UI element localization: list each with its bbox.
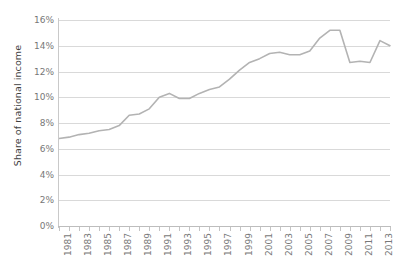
- x-axis-tick: [230, 227, 231, 231]
- x-axis-tick-label: 1989: [143, 233, 153, 256]
- x-axis-tick: [300, 227, 301, 231]
- x-axis-tick: [290, 227, 291, 231]
- y-axis-tick-labels: 0%2%4%6%8%10%12%14%16%: [24, 0, 54, 274]
- x-axis-tick: [89, 227, 90, 231]
- x-axis-tick-label: 1987: [123, 233, 133, 256]
- y-axis-tick-label: 4%: [40, 170, 54, 180]
- x-axis-tick: [189, 227, 190, 231]
- x-axis-tick: [199, 227, 200, 231]
- y-axis-tick-label: 8%: [40, 118, 54, 128]
- y-axis-title: Share of national income: [12, 6, 23, 206]
- y-axis-tick-label: 2%: [40, 195, 54, 205]
- x-axis-tick: [149, 227, 150, 231]
- x-axis-tick: [109, 227, 110, 231]
- x-axis-tick: [320, 227, 321, 231]
- series-line: [59, 20, 390, 226]
- x-axis-line: [58, 226, 391, 227]
- x-axis-tick-label: 2007: [324, 233, 334, 256]
- x-axis-tick: [340, 227, 341, 231]
- x-axis-tick: [250, 227, 251, 231]
- x-axis-tick: [390, 227, 391, 231]
- x-axis-tick: [370, 227, 371, 231]
- x-axis-tick: [59, 227, 60, 231]
- x-axis-tick: [380, 227, 381, 231]
- x-axis-tick: [179, 227, 180, 231]
- x-axis-tick: [270, 227, 271, 231]
- y-axis-tick-label: 12%: [34, 67, 54, 77]
- x-axis-tick: [79, 227, 80, 231]
- x-axis-tick-label: 1983: [83, 233, 93, 256]
- x-axis-tick-label: 1985: [103, 233, 113, 256]
- x-axis-tick: [219, 227, 220, 231]
- x-axis-tick-label: 1993: [183, 233, 193, 256]
- x-axis-tick-label: 2001: [264, 233, 274, 256]
- x-axis-tick-label: 1981: [63, 233, 73, 256]
- x-axis-tick: [209, 227, 210, 231]
- x-axis-tick-label: 2013: [384, 233, 394, 256]
- x-axis-tick: [169, 227, 170, 231]
- x-axis-tick: [330, 227, 331, 231]
- x-axis-tick: [139, 227, 140, 231]
- y-axis-tick-label: 14%: [34, 41, 54, 51]
- x-axis-tick: [350, 227, 351, 231]
- y-axis-tick-label: 6%: [40, 144, 54, 154]
- x-axis-tick: [360, 227, 361, 231]
- x-axis-tick-label: 1995: [203, 233, 213, 256]
- x-axis-tick: [129, 227, 130, 231]
- y-axis-line: [58, 18, 59, 228]
- x-axis-tick-label: 1991: [163, 233, 173, 256]
- x-axis-tick-label: 2005: [304, 233, 314, 256]
- x-axis-tick-label: 2003: [284, 233, 294, 256]
- x-axis-tick-label: 1997: [223, 233, 233, 256]
- x-axis-tick: [240, 227, 241, 231]
- y-axis-tick-label: 0%: [40, 221, 54, 231]
- x-axis-tick-label: 1999: [244, 233, 254, 256]
- x-axis-tick: [69, 227, 70, 231]
- x-axis-tick-label: 2011: [364, 233, 374, 256]
- line-chart: Share of national income 0%2%4%6%8%10%12…: [0, 0, 397, 274]
- y-axis-tick-label: 10%: [34, 92, 54, 102]
- x-axis-tick: [310, 227, 311, 231]
- x-axis-tick: [99, 227, 100, 231]
- x-axis-tick: [260, 227, 261, 231]
- y-axis-tick-label: 16%: [34, 15, 54, 25]
- x-axis-tick: [280, 227, 281, 231]
- plot-area: [59, 20, 390, 226]
- x-axis-tick: [119, 227, 120, 231]
- x-axis-tick-label: 2009: [344, 233, 354, 256]
- x-axis-tick: [159, 227, 160, 231]
